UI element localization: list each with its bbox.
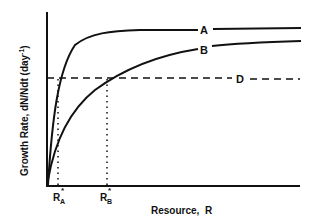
svg-text:B: B	[107, 198, 112, 205]
resource-growth-diagram: A B D R A * R B * Resource, R Growth Rat…	[0, 0, 321, 223]
tick-rb-star: R B *	[100, 186, 112, 205]
label-b: B	[200, 44, 208, 56]
x-axis-label: Resource, R	[151, 205, 213, 216]
svg-text:*: *	[108, 186, 112, 195]
label-d: D	[236, 73, 244, 85]
svg-text:A: A	[60, 198, 65, 205]
y-axis-label: Growth Rate, dN/Ndt (day-1)	[18, 45, 30, 176]
label-a: A	[200, 24, 208, 36]
svg-text:*: *	[61, 186, 65, 195]
svg-text:Growth Rate, dN/Ndt (day-1): Growth Rate, dN/Ndt (day-1)	[18, 45, 30, 176]
tick-ra-star: R A *	[53, 186, 65, 205]
curve-a	[48, 28, 301, 185]
curve-b	[48, 41, 301, 180]
